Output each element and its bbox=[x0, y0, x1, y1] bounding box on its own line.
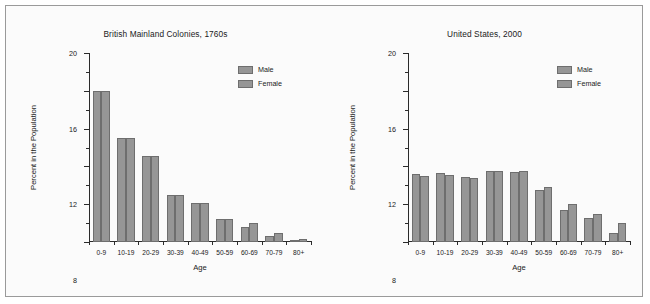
x-tick bbox=[188, 241, 189, 245]
chart-title-united-states: United States, 2000 bbox=[325, 29, 644, 39]
x-tick bbox=[89, 241, 90, 245]
legend-label-female: Female bbox=[258, 79, 282, 88]
bar-female-20-29 bbox=[151, 156, 160, 242]
bar-female-10-19 bbox=[126, 138, 135, 242]
y-tick-label: 8 bbox=[392, 275, 396, 284]
x-tick bbox=[581, 241, 582, 245]
y-tick-minor bbox=[86, 148, 89, 149]
x-tick-label: 60-69 bbox=[560, 249, 577, 256]
legend-label-female: Female bbox=[577, 79, 601, 88]
y-tick-label: 8 bbox=[73, 275, 77, 284]
x-tick bbox=[138, 241, 139, 245]
x-tick-label: 70-79 bbox=[266, 249, 283, 256]
y-tick-minor bbox=[86, 185, 89, 186]
bar-male-80+ bbox=[290, 240, 299, 242]
legend-item-male: Male bbox=[557, 64, 601, 75]
bar-female-60-69 bbox=[568, 204, 577, 242]
bar-male-60-69 bbox=[560, 210, 569, 242]
chart-panel-united-states: United States, 2000 Percent in the Popul… bbox=[325, 6, 644, 298]
legend-item-female: Female bbox=[238, 78, 282, 89]
bar-male-80+ bbox=[609, 233, 618, 242]
x-tick bbox=[556, 241, 557, 245]
y-tick-major: 12 bbox=[84, 129, 89, 130]
legend-label-male: Male bbox=[258, 65, 274, 74]
y-tick-minor bbox=[86, 72, 89, 73]
bar-male-40-49 bbox=[191, 203, 200, 242]
x-tick bbox=[212, 241, 213, 245]
bar-female-30-39 bbox=[175, 195, 184, 242]
bar-female-0-9 bbox=[101, 91, 110, 242]
legend-swatch-male bbox=[557, 66, 572, 74]
x-tick bbox=[311, 241, 312, 245]
x-tick bbox=[114, 241, 115, 245]
bar-male-50-59 bbox=[535, 190, 544, 242]
bar-female-80+ bbox=[618, 223, 627, 242]
bar-female-50-59 bbox=[225, 219, 234, 242]
bar-female-20-29 bbox=[470, 178, 479, 242]
bar-female-80+ bbox=[299, 239, 308, 242]
x-tick-label: 80+ bbox=[612, 249, 623, 256]
y-tick-major: 8 bbox=[84, 166, 89, 167]
legend-colonies: Male Female bbox=[238, 64, 282, 92]
y-tick-minor bbox=[405, 223, 408, 224]
y-tick-major: 4 bbox=[84, 204, 89, 205]
y-tick-label: 12 bbox=[69, 200, 77, 209]
x-tick bbox=[482, 241, 483, 245]
x-axis-title-colonies: Age bbox=[89, 263, 311, 272]
x-tick-label: 80+ bbox=[293, 249, 304, 256]
x-tick bbox=[507, 241, 508, 245]
legend-swatch-male bbox=[238, 66, 253, 74]
bar-male-0-9 bbox=[93, 91, 102, 242]
bar-female-40-49 bbox=[519, 171, 528, 242]
x-tick bbox=[457, 241, 458, 245]
chart-panel-colonies: British Mainland Colonies, 1760s Percent… bbox=[6, 6, 325, 298]
bar-male-40-49 bbox=[510, 172, 519, 242]
bar-female-50-59 bbox=[544, 187, 553, 242]
x-axis-title-united-states: Age bbox=[408, 263, 630, 272]
y-tick-label: 20 bbox=[388, 49, 396, 58]
x-tick bbox=[433, 241, 434, 245]
legend-label-male: Male bbox=[577, 65, 593, 74]
bar-female-60-69 bbox=[249, 223, 258, 242]
y-tick-major: 4 bbox=[403, 204, 408, 205]
y-tick-major: 12 bbox=[403, 129, 408, 130]
y-tick-minor bbox=[86, 110, 89, 111]
x-tick-label: 60-69 bbox=[241, 249, 258, 256]
bar-male-50-59 bbox=[216, 219, 225, 242]
bar-male-10-19 bbox=[436, 173, 445, 242]
y-tick-label: 20 bbox=[69, 49, 77, 58]
x-tick-label: 40-49 bbox=[511, 249, 528, 256]
legend-swatch-female bbox=[238, 80, 253, 88]
y-tick-minor bbox=[86, 223, 89, 224]
legend-united-states: Male Female bbox=[557, 64, 601, 92]
bar-male-70-79 bbox=[265, 236, 274, 242]
bar-male-70-79 bbox=[584, 218, 593, 242]
x-tick-label: 30-39 bbox=[167, 249, 184, 256]
y-tick-major: 20 bbox=[403, 53, 408, 54]
bar-male-60-69 bbox=[241, 227, 250, 242]
x-tick bbox=[605, 241, 606, 245]
x-tick-label: 50-59 bbox=[216, 249, 233, 256]
x-tick bbox=[408, 241, 409, 245]
x-tick-label: 20-29 bbox=[142, 249, 159, 256]
bar-female-10-19 bbox=[445, 175, 454, 242]
y-tick-minor bbox=[405, 110, 408, 111]
y-tick-major: 16 bbox=[403, 91, 408, 92]
x-tick-label: 40-49 bbox=[192, 249, 209, 256]
x-tick bbox=[163, 241, 164, 245]
x-tick bbox=[630, 241, 631, 245]
y-tick-label: 16 bbox=[69, 124, 77, 133]
y-tick-major: 16 bbox=[84, 91, 89, 92]
bar-female-70-79 bbox=[274, 233, 283, 242]
x-tick-label: 10-19 bbox=[437, 249, 454, 256]
chart-title-colonies: British Mainland Colonies, 1760s bbox=[6, 29, 325, 39]
bar-female-70-79 bbox=[593, 214, 602, 242]
y-tick-minor bbox=[405, 148, 408, 149]
x-tick-label: 10-19 bbox=[118, 249, 135, 256]
y-axis-line bbox=[89, 53, 90, 242]
x-tick bbox=[237, 241, 238, 245]
y-axis-title-colonies: Percent in the Population bbox=[28, 53, 40, 242]
bar-male-10-19 bbox=[117, 138, 126, 242]
bar-male-30-39 bbox=[167, 195, 176, 242]
bar-female-40-49 bbox=[200, 203, 209, 242]
